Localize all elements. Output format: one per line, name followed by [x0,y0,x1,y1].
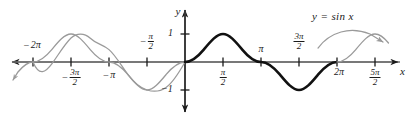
x-tick-label-neg-pi-value: π [110,69,115,80]
numerator: π [220,68,227,77]
minus-sign: − [23,41,31,51]
x-tick-label-5pi-over-2: 5π 2 [369,68,380,87]
fraction: 3π 2 [293,32,304,51]
x-tick-label-neg-2pi-value: 2π [31,39,41,50]
numerator: 3π [293,32,304,41]
fraction: π 2 [220,68,227,87]
minus-sign: − [140,37,148,47]
sine-curve-right-context [337,34,389,62]
x-tick-label-neg-2pi: −2π [23,40,41,51]
denominator: 2 [148,41,155,51]
y-axis-label: y [176,6,181,17]
minus-sign: − [62,73,70,83]
y-tick-label-neg-1: −1 [161,84,173,94]
x-tick-label-2pi: 2π [334,67,344,77]
equation-label: y = sin x [312,11,354,22]
denominator: 2 [69,77,80,87]
numerator: 3π [69,68,80,77]
x-tick-label-neg-3pi-over-2: − 3π 2 [62,68,81,87]
denominator: 2 [220,77,227,87]
equation-pointer-arrow [318,30,383,48]
numerator: π [148,32,155,41]
sine-curve-left-tail-arrow [13,62,33,80]
x-tick-label-neg-pi: −π [103,70,116,81]
numerator: 5π [369,68,380,77]
x-tick-label-neg-pi-over-2: − π 2 [140,32,154,51]
y-tick-label-1: 1 [168,28,173,38]
fraction: 3π 2 [69,68,80,87]
x-tick-label-pi: π [258,44,263,54]
x-tick-label-3pi-over-2: 3π 2 [293,32,304,51]
denominator: 2 [293,41,304,51]
denominator: 2 [369,77,380,87]
minus-sign: − [103,71,111,81]
x-tick-label-pi-over-2: π 2 [220,68,227,87]
fraction: 5π 2 [369,68,380,87]
fraction: π 2 [148,32,155,51]
x-axis-label: x [400,66,405,77]
